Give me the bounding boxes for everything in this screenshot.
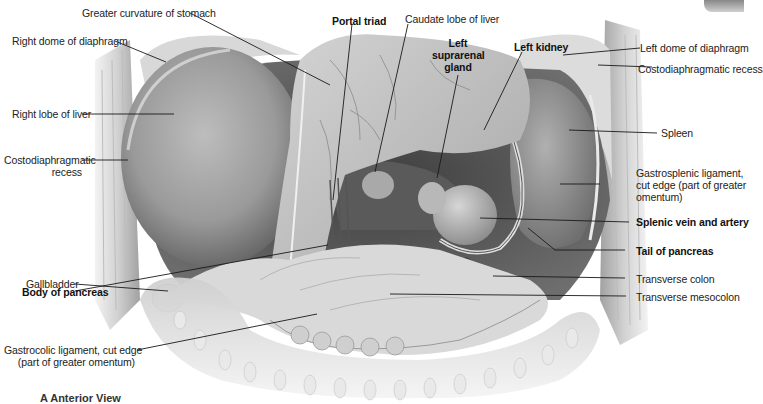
label-costo-recess-right-line1: Costodiaphragmatic bbox=[4, 154, 82, 166]
label-left-suprarenal-gland: Left suprarenal gland bbox=[432, 37, 484, 73]
caption-text: Anterior View bbox=[50, 392, 121, 404]
label-gastrosplenic-ligament: Gastrosplenic ligament, cut edge (part o… bbox=[636, 167, 746, 203]
figure-caption: A Anterior View bbox=[40, 392, 121, 404]
label-left-kidney: Left kidney bbox=[514, 41, 568, 53]
label-right-lobe-of-liver: Right lobe of liver bbox=[12, 108, 91, 120]
label-left-suprarenal-line3: gland bbox=[432, 61, 484, 73]
label-costodiaphragmatic-recess-left: Costodiaphragmatic recess bbox=[638, 63, 763, 75]
label-body-of-pancreas: Body of pancreas bbox=[22, 286, 109, 298]
caption-letter: A bbox=[40, 392, 48, 404]
label-left-suprarenal-line1: Left bbox=[432, 37, 484, 49]
label-splenic-vein-and-artery: Splenic vein and artery bbox=[636, 216, 749, 228]
label-portal-triad: Portal triad bbox=[332, 15, 386, 27]
label-gastrosplenic-line2: cut edge (part of greater bbox=[636, 179, 746, 191]
label-gastrosplenic-line1: Gastrosplenic ligament, bbox=[636, 167, 746, 179]
label-tail-of-pancreas: Tail of pancreas bbox=[636, 245, 714, 257]
label-left-suprarenal-line2: suprarenal bbox=[432, 49, 484, 61]
label-gastrocolic-line2: (part of greater omentum) bbox=[4, 356, 135, 368]
label-spleen: Spleen bbox=[661, 127, 693, 139]
label-left-dome-of-diaphragm: Left dome of diaphragm bbox=[640, 42, 749, 54]
label-costo-recess-right-line2: recess bbox=[4, 166, 82, 178]
label-transverse-colon: Transverse colon bbox=[636, 273, 715, 285]
label-right-dome-of-diaphragm: Right dome of diaphragm bbox=[12, 35, 128, 47]
label-gastrocolic-line1: Gastrocolic ligament, cut edge bbox=[4, 344, 135, 356]
label-caudate-lobe-of-liver: Caudate lobe of liver bbox=[405, 13, 499, 25]
label-gastrosplenic-line3: omentum) bbox=[636, 191, 746, 203]
label-greater-curvature-of-stomach: Greater curvature of stomach bbox=[82, 7, 216, 19]
label-costodiaphragmatic-recess-right: Costodiaphragmatic recess bbox=[4, 154, 82, 178]
label-gastrocolic-ligament: Gastrocolic ligament, cut edge (part of … bbox=[4, 344, 135, 368]
label-transverse-mesocolon: Transverse mesocolon bbox=[636, 291, 740, 303]
